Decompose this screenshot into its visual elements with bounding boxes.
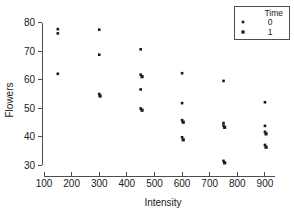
y-tick-label: 70 bbox=[24, 46, 36, 57]
x-tick-label: 800 bbox=[229, 178, 246, 189]
x-tick-label: 100 bbox=[36, 178, 53, 189]
data-point bbox=[264, 146, 267, 149]
x-tick-label: 500 bbox=[146, 178, 163, 189]
data-point bbox=[139, 48, 142, 51]
scatter-plot-figure: 304050607080 100200300400500600700800900… bbox=[0, 0, 294, 214]
data-point bbox=[98, 28, 101, 31]
data-point bbox=[182, 121, 185, 124]
data-point bbox=[57, 28, 60, 31]
x-tick-labels: 100200300400500600700800900 bbox=[36, 178, 274, 189]
data-point bbox=[57, 32, 60, 35]
data-point bbox=[264, 132, 267, 135]
y-tick-labels: 304050607080 bbox=[24, 17, 36, 170]
data-point bbox=[98, 53, 101, 56]
legend[interactable]: Time01 bbox=[234, 6, 289, 39]
data-point bbox=[181, 136, 184, 139]
x-tick-label: 400 bbox=[119, 178, 136, 189]
data-point bbox=[264, 101, 267, 104]
x-tick-label: 700 bbox=[201, 178, 218, 189]
data-points-layer bbox=[57, 28, 268, 165]
plot-canvas: 304050607080 100200300400500600700800900… bbox=[0, 0, 294, 214]
x-tick-label: 300 bbox=[91, 178, 108, 189]
data-point bbox=[139, 88, 142, 91]
x-tick-label: 900 bbox=[257, 178, 274, 189]
y-axis-title: Flowers bbox=[4, 82, 15, 117]
legend-label-0[interactable]: 0 bbox=[268, 17, 273, 27]
y-axis bbox=[38, 23, 42, 165]
y-tick-label: 80 bbox=[24, 17, 36, 28]
data-point bbox=[222, 80, 225, 83]
series-0 bbox=[57, 28, 267, 162]
data-point bbox=[182, 138, 185, 141]
data-point bbox=[140, 75, 143, 78]
x-axis bbox=[44, 172, 275, 176]
y-tick-label: 50 bbox=[24, 103, 36, 114]
y-tick-label: 30 bbox=[24, 160, 36, 171]
data-point bbox=[223, 161, 226, 164]
x-tick-label: 600 bbox=[174, 178, 191, 189]
y-tick-label: 60 bbox=[24, 74, 36, 85]
y-tick-label: 40 bbox=[24, 131, 36, 142]
x-tick-label: 200 bbox=[63, 178, 80, 189]
data-point bbox=[140, 109, 143, 112]
x-axis-title: Intensity bbox=[144, 197, 181, 208]
data-point bbox=[223, 126, 226, 129]
data-point bbox=[181, 72, 184, 75]
data-point bbox=[98, 94, 101, 97]
legend-marker-0 bbox=[242, 21, 245, 24]
legend-marker-1 bbox=[241, 30, 244, 33]
legend-label-1[interactable]: 1 bbox=[268, 27, 273, 37]
data-point bbox=[264, 125, 267, 128]
data-point bbox=[57, 72, 60, 75]
data-point bbox=[181, 102, 184, 105]
data-point bbox=[222, 122, 225, 125]
